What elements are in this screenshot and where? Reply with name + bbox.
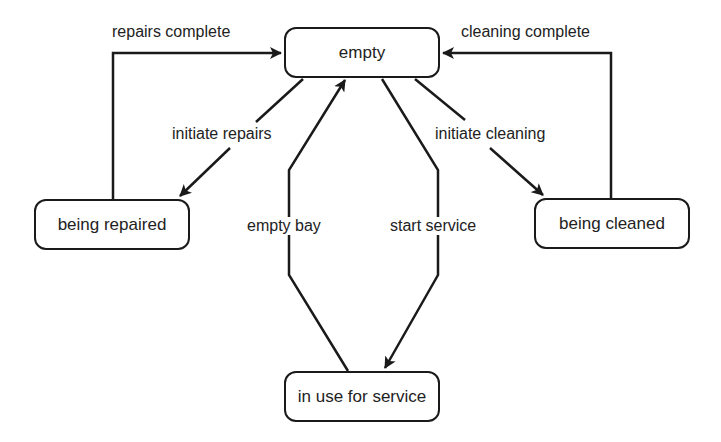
label-initiate-repairs: initiate repairs	[170, 125, 274, 143]
state-empty: empty	[284, 27, 440, 78]
label-start-service: start service	[388, 217, 478, 235]
edge-initiate-cleaning-upper	[415, 79, 465, 120]
state-being-repaired-label: being repaired	[58, 215, 167, 235]
edge-initiate-cleaning-lower	[490, 148, 543, 195]
state-being-cleaned-label: being cleaned	[559, 214, 665, 234]
label-repairs-complete: repairs complete	[110, 23, 232, 41]
state-being-cleaned: being cleaned	[534, 198, 690, 249]
state-in-use-label: in use for service	[298, 387, 427, 407]
edge-initiate-repairs-upper	[256, 79, 303, 122]
label-empty-bay: empty bay	[245, 217, 323, 235]
state-in-use-for-service: in use for service	[284, 371, 440, 422]
label-cleaning-complete: cleaning complete	[459, 23, 592, 41]
state-being-repaired: being repaired	[34, 199, 190, 250]
state-empty-label: empty	[339, 43, 385, 63]
edge-initiate-repairs-lower	[180, 148, 230, 196]
label-initiate-cleaning: initiate cleaning	[433, 125, 547, 143]
